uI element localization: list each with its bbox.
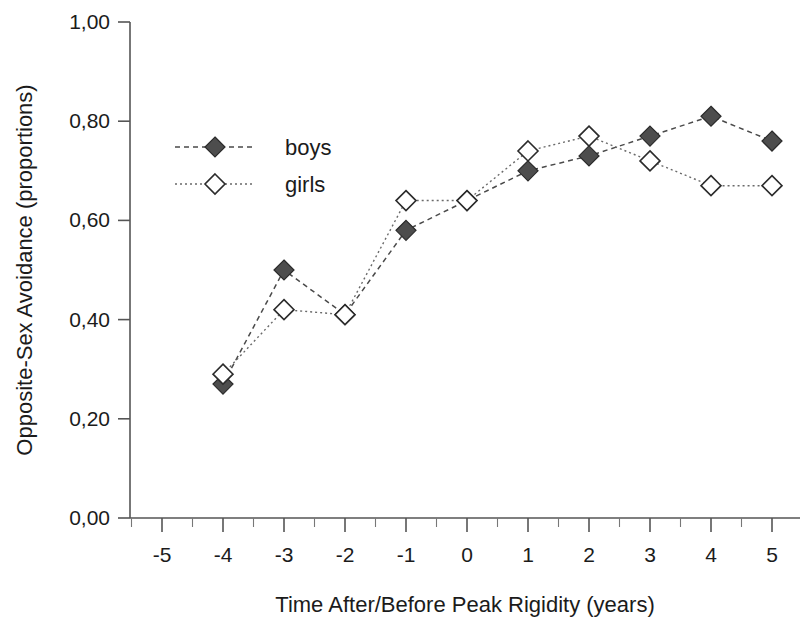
data-point-girls bbox=[457, 191, 477, 211]
data-point-boys bbox=[640, 126, 660, 146]
x-tick-label: -5 bbox=[153, 543, 172, 566]
data-point-girls bbox=[701, 176, 721, 196]
legend-label-boys: boys bbox=[285, 135, 331, 160]
data-point-boys bbox=[518, 161, 538, 181]
data-point-girls bbox=[335, 305, 355, 325]
x-tick-label: -3 bbox=[275, 543, 294, 566]
x-tick-label: -4 bbox=[214, 543, 233, 566]
chart-legend: boysgirls bbox=[175, 135, 331, 197]
x-tick-label: -2 bbox=[336, 543, 355, 566]
data-point-girls bbox=[579, 126, 599, 146]
data-point-boys bbox=[701, 106, 721, 126]
data-point-boys bbox=[396, 220, 416, 240]
y-tick-label: 0,20 bbox=[69, 407, 110, 430]
y-axis-title: Opposite-Sex Avoidance (proportions) bbox=[12, 84, 37, 455]
data-point-boys bbox=[274, 260, 294, 280]
data-point-girls bbox=[396, 191, 416, 211]
y-tick-label: 0,60 bbox=[69, 208, 110, 231]
data-point-girls bbox=[762, 176, 782, 196]
y-tick-label: 1,00 bbox=[69, 10, 110, 33]
y-tick-label: 0,80 bbox=[69, 109, 110, 132]
x-axis-tick-labels: -5-4-3-2-1012345 bbox=[153, 543, 778, 566]
legend-marker-girls bbox=[205, 174, 225, 194]
legend-label-girls: girls bbox=[285, 172, 325, 197]
data-point-girls bbox=[640, 151, 660, 171]
x-tick-label: 4 bbox=[705, 543, 717, 566]
data-point-girls bbox=[518, 141, 538, 161]
y-tick-label: 0,00 bbox=[69, 506, 110, 529]
x-tick-label: 5 bbox=[766, 543, 778, 566]
chart-figure: 0,000,200,400,600,801,00 -5-4-3-2-101234… bbox=[0, 0, 810, 632]
y-axis-ticks bbox=[118, 22, 130, 518]
x-tick-label: 2 bbox=[583, 543, 595, 566]
x-tick-label: -1 bbox=[397, 543, 416, 566]
legend-marker-boys bbox=[205, 137, 225, 157]
x-tick-label: 3 bbox=[644, 543, 656, 566]
y-axis-tick-labels: 0,000,200,400,600,801,00 bbox=[69, 10, 110, 529]
data-point-girls bbox=[274, 300, 294, 320]
line-chart: 0,000,200,400,600,801,00 -5-4-3-2-101234… bbox=[0, 0, 810, 632]
x-axis-title: Time After/Before Peak Rigidity (years) bbox=[275, 592, 654, 617]
data-point-boys bbox=[762, 131, 782, 151]
x-tick-label: 0 bbox=[461, 543, 473, 566]
x-tick-label: 1 bbox=[522, 543, 534, 566]
data-point-boys bbox=[579, 146, 599, 166]
y-tick-label: 0,40 bbox=[69, 308, 110, 331]
